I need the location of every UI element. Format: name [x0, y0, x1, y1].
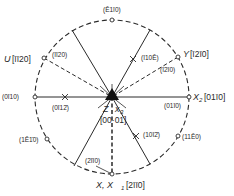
- label-top-pole: (Ē1ī0): [103, 6, 121, 14]
- cross-1102-icon: [130, 56, 136, 62]
- label-01-10: (01ī0): [164, 102, 181, 110]
- dashed-line-u: [44, 58, 112, 97]
- pole-x-marker: [110, 172, 114, 176]
- pole-y-marker: [176, 55, 180, 59]
- label-x-sub: 1: [121, 185, 124, 191]
- label-u-index: [īī20]: [12, 54, 31, 64]
- label-1102: (ī10Ē): [141, 54, 159, 62]
- pole-1120-marker: [176, 134, 180, 138]
- label-center-index: [00·01]: [100, 115, 126, 125]
- pole-top-marker: [110, 18, 114, 22]
- label-x2-sub: 2: [198, 97, 203, 103]
- label-1120: (11Ē0): [182, 133, 201, 141]
- label-0112: (0ī12̄): [52, 104, 69, 112]
- stereographic-projection: (Ē1ī0) U [īī20] (īī20) (0ī10) (0ī12̄) (1…: [0, 0, 234, 196]
- zone-line-upper-left: [72, 30, 112, 97]
- label-x-axis: X, X: [95, 180, 114, 190]
- label-y-index: [ī2ī0]: [190, 49, 209, 59]
- dashed-line-2110: [96, 166, 112, 174]
- label-y-axis: Y: [183, 49, 190, 59]
- label-y-inner: (ī2ī0): [160, 66, 175, 74]
- label-u-inner: (īī20): [52, 51, 67, 59]
- label-left-pole: (0ī10): [2, 93, 19, 101]
- label-x-index: [2īī0]: [126, 180, 145, 190]
- pole-1210-marker: [45, 137, 49, 141]
- pole-x2-marker: [187, 95, 191, 99]
- dashed-line-y: [112, 57, 178, 97]
- label-x2-index: [01ī0]: [204, 92, 225, 102]
- pole-u-marker: [42, 56, 46, 60]
- label-u-axis: U: [4, 54, 11, 64]
- zone-line-upper-right: [112, 30, 150, 97]
- pole-left-marker: [33, 95, 37, 99]
- label-2110-inner: (2īī0): [85, 157, 100, 165]
- label-1210: (1Ē1̄0): [19, 136, 39, 144]
- label-1012: (10ī2̄): [143, 131, 160, 139]
- label-z-axis: Z: [102, 104, 109, 114]
